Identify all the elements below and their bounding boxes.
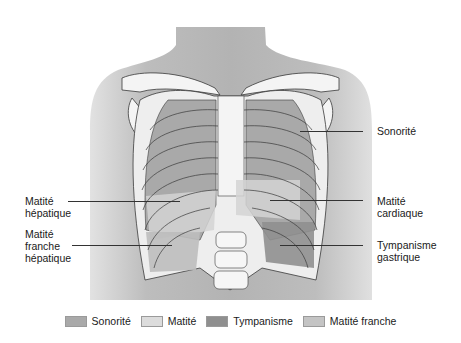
swatch-matite-franche (303, 316, 325, 327)
label-tympanisme-gastrique: Tympanisme gastrique (377, 239, 437, 263)
legend-item-matite: Matité (141, 315, 197, 327)
leader-matite-hepatique (68, 201, 180, 202)
vertebrae (214, 232, 248, 289)
swatch-sonorite (65, 316, 87, 327)
swatch-tympanisme (206, 316, 228, 327)
leader-tympanisme-gastrique (280, 245, 363, 246)
legend-item-tympanisme: Tympanisme (206, 315, 293, 327)
legend-label: Tympanisme (233, 315, 293, 327)
legend-item-sonorite: Sonorité (65, 315, 131, 327)
label-matite-cardiaque: Matité cardiaque (377, 195, 423, 219)
label-sonorite: Sonorité (377, 125, 416, 137)
leader-sonorite (300, 131, 363, 132)
legend-item-matite-franche: Matité franche (303, 315, 397, 327)
label-matite-hepatique: Matité hépatique (25, 195, 71, 219)
swatch-matite (141, 316, 163, 327)
legend-label: Matité (168, 315, 197, 327)
legend: Sonorité Matité Tympanisme Matité franch… (0, 312, 461, 330)
legend-label: Sonorité (92, 315, 131, 327)
leader-matite-franche-hepatique (72, 245, 172, 246)
legend-label: Matité franche (330, 315, 397, 327)
label-matite-franche-hepatique: Matité franche hépatique (25, 228, 71, 264)
leader-matite-cardiaque (270, 200, 363, 201)
